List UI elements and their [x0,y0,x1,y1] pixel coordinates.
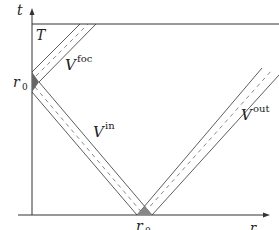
band-out [137,68,279,215]
V-in-label: V in [93,120,115,141]
svg-text:0: 0 [145,226,151,230]
svg-text:0: 0 [22,82,28,92]
V-foc-label: V foc [65,53,93,74]
shaded-corner-t-axis [32,72,39,92]
T-label: T [36,27,47,43]
svg-text:out: out [253,103,269,114]
r0-label-r-axis: r 0 [136,218,151,230]
r-axis-arrow-icon [263,213,270,218]
svg-text:r: r [13,74,21,90]
svg-text:foc: foc [77,53,93,64]
t-axis-label: t [17,2,23,18]
band-in [32,82,152,215]
V-out-label: V out [241,103,269,124]
svg-text:r: r [136,218,144,230]
r-axis-label: r [250,220,257,230]
t-axis-arrow-icon [30,8,35,15]
svg-text:in: in [105,120,115,131]
shaded-corner-r-axis [137,206,152,215]
r0-label-t-axis: r 0 [13,74,28,92]
spacetime-diagram: t r T r 0 r 0 V foc V in V out [0,0,279,230]
